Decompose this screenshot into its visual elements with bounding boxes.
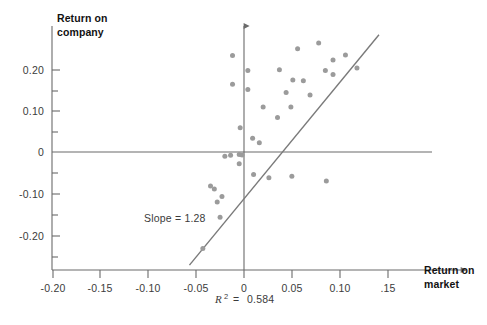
slope-annotation: Slope = 1.28 xyxy=(144,212,206,224)
scatter-point xyxy=(245,68,250,73)
x-axis-spine-group xyxy=(52,270,466,278)
scatter-point xyxy=(200,246,205,251)
scatter-point xyxy=(331,58,336,63)
scatter-point xyxy=(308,93,313,98)
r-squared-symbol: R xyxy=(214,293,222,305)
x-tick-label-1: -0.15 xyxy=(88,282,113,294)
scatter-point xyxy=(301,78,306,83)
r-squared-exponent: 2 xyxy=(224,292,228,301)
x-tick-label-5: 0.05 xyxy=(281,282,302,294)
x-tick-label-3: -0.05 xyxy=(184,282,209,294)
y-tick-label-0: 0.20 xyxy=(23,64,44,76)
y-tick-label-3: -0.10 xyxy=(19,188,44,200)
y-axis-spine-group xyxy=(52,26,60,270)
y-tick-label-2: 0 xyxy=(38,146,44,158)
x-axis-title-line1: Return on xyxy=(424,264,474,276)
scatter-point xyxy=(284,90,289,95)
regression-line xyxy=(189,35,379,265)
scatter-point xyxy=(261,105,266,110)
scatter-point xyxy=(316,41,321,46)
scatter-point xyxy=(219,194,224,199)
x-tick-label-2: -0.10 xyxy=(136,282,161,294)
scatter-point xyxy=(222,154,227,159)
scatter-point xyxy=(324,179,329,184)
scatter-point xyxy=(215,199,220,204)
y-tick-labels: 0.20 0.10 0 -0.10 -0.20 xyxy=(19,64,44,242)
scatter-point xyxy=(250,136,255,141)
scatter-point xyxy=(251,172,256,177)
scatter-point xyxy=(238,125,243,130)
scatter-point xyxy=(228,153,233,158)
scatter-point xyxy=(343,53,348,58)
axis-titles: Return on company Return on market xyxy=(57,12,474,290)
y-axis-title-line2: company xyxy=(57,26,104,38)
scatter-point xyxy=(240,152,245,157)
scatter-point xyxy=(218,215,223,220)
scatter-chart-figure: 0.20 0.10 0 -0.10 -0.20 -0.20 -0.15 -0.1… xyxy=(0,0,487,325)
scatter-point xyxy=(237,161,242,166)
scatter-point xyxy=(288,105,293,110)
scatter-point xyxy=(208,184,213,189)
r-squared-equals: = xyxy=(233,293,239,305)
scatter-point xyxy=(245,87,250,92)
y-axis-title-line1: Return on xyxy=(57,12,107,24)
scatter-point xyxy=(257,140,262,145)
x-tick-label-7: .15 xyxy=(380,282,395,294)
scatter-point xyxy=(277,67,282,72)
scatter-point xyxy=(275,115,280,120)
chart-svg: 0.20 0.10 0 -0.10 -0.20 -0.20 -0.15 -0.1… xyxy=(0,0,487,325)
scatter-point xyxy=(290,78,295,83)
x-tick-label-0: -0.20 xyxy=(41,282,66,294)
scatter-point xyxy=(331,72,336,77)
y-tick-label-1: 0.10 xyxy=(23,105,44,117)
scatter-point xyxy=(354,65,359,70)
y-tick-label-4: -0.20 xyxy=(19,230,44,242)
regression-line-group xyxy=(189,35,379,265)
scatter-point xyxy=(230,82,235,87)
scatter-points-layer xyxy=(200,41,359,252)
r-squared-value: 0.584 xyxy=(247,293,274,305)
scatter-point xyxy=(266,175,271,180)
scatter-point xyxy=(289,174,294,179)
scatter-point xyxy=(323,68,328,73)
x-axis-title-line2: market xyxy=(424,278,459,290)
x-tick-label-6: 0.10 xyxy=(329,282,350,294)
scatter-point xyxy=(230,53,235,58)
scatter-point xyxy=(295,46,300,51)
